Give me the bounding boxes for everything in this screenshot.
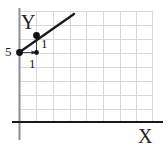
second-point [33,32,40,39]
corner-point [34,50,39,55]
y-axis-label: Y [21,12,35,32]
run-label: 1 [29,57,36,70]
rise-label: 1 [41,37,48,50]
grid-lines [19,11,153,122]
coordinate-graph: Y X 5 1 1 [0,0,168,153]
x-axis-label: X [138,126,152,146]
y-intercept-label: 5 [5,45,12,58]
y-intercept-point [16,49,23,56]
